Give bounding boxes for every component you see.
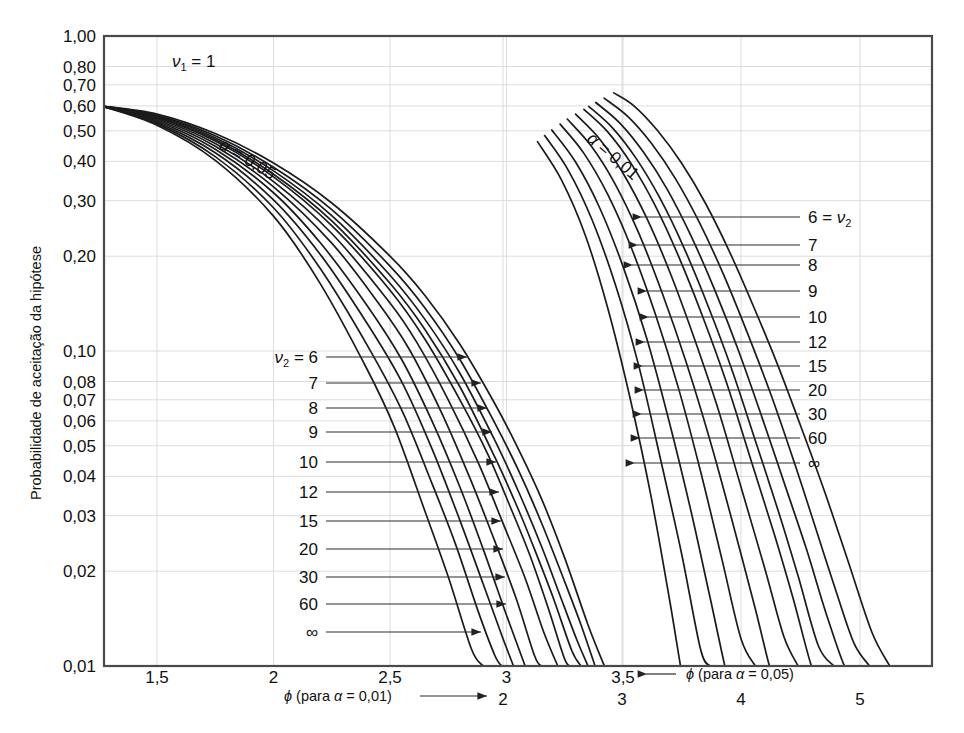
- right-callout-label-1: 7: [808, 236, 817, 255]
- oc-curve-a001-nu2-15: [567, 119, 776, 677]
- oc-curve-a005-nu2-12: [101, 106, 558, 666]
- left-callout-label-1: 7: [309, 374, 318, 393]
- right-callout-label-5: 12: [808, 333, 827, 352]
- y-tick-label: 0,20: [63, 247, 96, 266]
- y-tick-label: 0,80: [63, 58, 96, 77]
- xaxis-caption-001: ϕ (para α = 0,01): [284, 688, 487, 704]
- x-tick-label-a005: 2,5: [378, 668, 402, 687]
- y-tick-label: 0,10: [63, 342, 96, 361]
- y-tick-label: 0,50: [63, 122, 96, 141]
- right-callout-label-6: 15: [808, 357, 827, 376]
- left-callout-label-10: ∞: [306, 623, 318, 642]
- right-callout-label-9: 60: [808, 429, 827, 448]
- right-callout-label-8: 30: [808, 405, 827, 424]
- oc-curve-a001-nu2-20: [560, 124, 755, 666]
- y-tick-label: 0,60: [63, 97, 96, 116]
- y-tick-label: 0,70: [63, 76, 96, 95]
- x-tick-label-a001: 2: [498, 690, 507, 709]
- right-callout-label-4: 10: [808, 308, 827, 327]
- y-tick-label: 0,30: [63, 192, 96, 211]
- left-callout-label-9: 60: [299, 595, 318, 614]
- oc-curve-a005-nu2-9: [101, 106, 581, 666]
- left-callout-label-6: 15: [299, 512, 318, 531]
- y-tick-label: 0,08: [63, 373, 96, 392]
- x-tick-label-a005: 3,5: [611, 668, 635, 687]
- left-callout-label-2: 8: [309, 399, 318, 418]
- left-callout-label-5: 12: [299, 483, 318, 502]
- left-callout-label-4: 10: [299, 453, 318, 472]
- y-tick-label: 0,01: [63, 657, 96, 676]
- right-callout-label-7: 20: [808, 381, 827, 400]
- x-tick-label-a005: 2: [269, 668, 278, 687]
- y-tick-label: 0,04: [63, 467, 96, 486]
- oc-curve-a001-nu2-60: [545, 136, 710, 666]
- x-tick-label-a005: 1,5: [145, 668, 169, 687]
- y-tick-label: 0,40: [63, 152, 96, 171]
- oc-curve-a005-nu2-10: [101, 106, 572, 666]
- x-tick-label-a001: 5: [855, 690, 864, 709]
- y-tick-label: 0,03: [63, 507, 96, 526]
- y-tick-label: 0,06: [63, 412, 96, 431]
- x-tick-label-a005: 3: [502, 668, 511, 687]
- oc-curve-a005-nu2-8: [101, 106, 588, 666]
- y-tick-label: 0,05: [63, 437, 96, 456]
- oc-curve-a001-nu2-6: [614, 93, 890, 666]
- x-tick-label-a001: 3: [617, 690, 626, 709]
- right-callout-label-2: 8: [808, 256, 817, 275]
- y-axis-title: Probabilidade de aceitação da hipótese: [28, 246, 44, 500]
- oc-curve-a001-nu2-30: [552, 130, 732, 686]
- left-callout-label-7: 20: [299, 540, 318, 559]
- x-tick-label-a001: 4: [736, 690, 745, 709]
- left-callout-label-3: 9: [309, 423, 318, 442]
- curve-layer: [101, 93, 890, 699]
- y-axis-ticks: 1,000,800,700,600,500,400,300,200,100,08…: [63, 27, 96, 676]
- oc-curve-a005-nu2-7: [101, 106, 595, 666]
- oc-curve-a001-nu2-10: [584, 109, 820, 673]
- caption-005-text: ϕ (para α = 0,05): [686, 666, 794, 682]
- y-tick-label: 1,00: [63, 27, 96, 46]
- xaxis-caption-005: ϕ (para α = 0,05): [646, 666, 794, 682]
- right-callout-label-0: 6 = ν2: [808, 208, 851, 229]
- oc-curve-a001-nu2-∞: [538, 142, 689, 699]
- caption-001-text: ϕ (para α = 0,01): [284, 688, 392, 704]
- oc-curve-a005-nu2-∞: [101, 106, 483, 666]
- oc-curve-a005-nu2-6: [101, 106, 604, 666]
- y-tick-label: 0,02: [63, 562, 96, 581]
- oc-curve-chart: 1,000,800,700,600,500,400,300,200,100,08…: [0, 0, 964, 733]
- right-callout-label-3: 9: [808, 282, 817, 301]
- right-callout-label-10: ∞: [808, 454, 820, 473]
- nu1-annotation: ν1 = 1: [172, 52, 215, 73]
- left-callout-label-0: ν2 = 6: [275, 348, 318, 369]
- left-callout-label-8: 30: [299, 568, 318, 587]
- y-tick-label: 0,07: [63, 391, 96, 410]
